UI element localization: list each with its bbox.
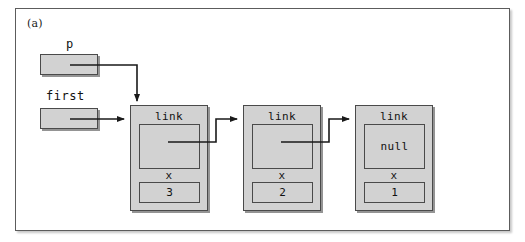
node-2-link-label: link — [244, 110, 320, 123]
node-2-data-slot[interactable]: 2 — [252, 182, 313, 203]
list-node-1[interactable]: link x 3 — [130, 105, 208, 211]
node-3-data-label: x — [356, 169, 432, 182]
pointer-label-first: first — [46, 89, 85, 103]
node-1-link-label: link — [131, 110, 207, 123]
list-node-3[interactable]: link null x 1 — [355, 105, 433, 211]
node-1-data-label: x — [131, 169, 207, 182]
panel-label: (a) — [27, 17, 43, 30]
node-1-data-slot[interactable]: 3 — [139, 182, 200, 203]
node-2-link-slot[interactable] — [252, 124, 313, 169]
node-3-data-slot[interactable]: 1 — [364, 182, 425, 203]
pointer-box-first[interactable] — [40, 108, 98, 129]
list-node-2[interactable]: link x 2 — [243, 105, 321, 211]
pointer-box-p[interactable] — [40, 54, 98, 75]
node-3-link-label: link — [356, 110, 432, 123]
pointer-label-p: p — [66, 37, 74, 51]
node-3-link-slot[interactable]: null — [364, 124, 425, 169]
node-1-link-slot[interactable] — [139, 124, 200, 169]
node-2-data-label: x — [244, 169, 320, 182]
